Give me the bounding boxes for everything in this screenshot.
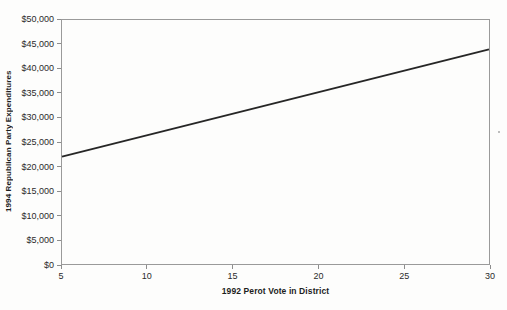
x-tick-mark bbox=[146, 265, 147, 269]
x-tick-mark bbox=[61, 265, 62, 269]
scan-speck bbox=[498, 131, 500, 133]
y-tick-mark bbox=[57, 240, 61, 241]
y-tick-mark bbox=[57, 215, 61, 216]
y-tick-label: $40,000 bbox=[0, 63, 54, 73]
y-tick-label: $10,000 bbox=[0, 211, 54, 221]
y-tick-label: $25,000 bbox=[0, 137, 54, 147]
x-tick-label: 10 bbox=[132, 271, 162, 281]
y-tick-mark bbox=[57, 191, 61, 192]
series-line bbox=[62, 49, 489, 156]
x-tick-mark bbox=[232, 265, 233, 269]
y-tick-label: $50,000 bbox=[0, 14, 54, 24]
y-tick-mark bbox=[57, 142, 61, 143]
y-tick-label: $5,000 bbox=[0, 235, 54, 245]
x-tick-label: 20 bbox=[303, 271, 333, 281]
x-tick-mark bbox=[490, 265, 491, 269]
y-tick-mark bbox=[57, 166, 61, 167]
y-tick-mark bbox=[57, 92, 61, 93]
y-tick-label: $20,000 bbox=[0, 162, 54, 172]
x-axis-title: 1992 Perot Vote in District bbox=[61, 286, 490, 296]
x-tick-label: 25 bbox=[389, 271, 419, 281]
y-tick-mark bbox=[57, 19, 61, 20]
y-tick-mark bbox=[57, 43, 61, 44]
y-tick-mark bbox=[57, 117, 61, 118]
y-tick-label: $15,000 bbox=[0, 186, 54, 196]
x-tick-mark bbox=[318, 265, 319, 269]
x-tick-label: 15 bbox=[218, 271, 248, 281]
x-tick-label: 5 bbox=[46, 271, 76, 281]
y-tick-label: $35,000 bbox=[0, 88, 54, 98]
x-tick-mark bbox=[404, 265, 405, 269]
y-tick-label: $0 bbox=[0, 260, 54, 270]
series-svg bbox=[62, 20, 489, 264]
y-tick-label: $30,000 bbox=[0, 112, 54, 122]
x-tick-label: 30 bbox=[475, 271, 505, 281]
y-tick-label: $45,000 bbox=[0, 39, 54, 49]
chart-root: 1994 Republican Party Expenditures $0$5,… bbox=[0, 0, 507, 310]
y-tick-mark bbox=[57, 68, 61, 69]
